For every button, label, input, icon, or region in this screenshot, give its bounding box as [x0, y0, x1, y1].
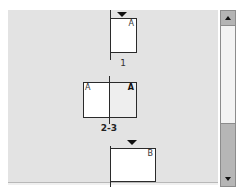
triangle-down-icon [117, 12, 127, 17]
panel-bottom-edge [8, 183, 218, 185]
page-1-thumbnail[interactable]: A [110, 18, 137, 53]
vertical-scrollbar[interactable] [220, 10, 236, 187]
spread-2-3-spine [109, 76, 110, 124]
page-b-thumbnail[interactable]: B [110, 148, 156, 182]
page-1-label[interactable]: 1 [108, 58, 138, 68]
page-3-master-letter: A [128, 84, 134, 92]
page-3-thumbnail[interactable]: A [110, 82, 137, 118]
spread-2-3-label[interactable]: 2-3 [94, 123, 124, 133]
page-b-master-letter: B [148, 150, 154, 158]
page-1-master-letter: A [129, 20, 134, 28]
page-2-thumbnail[interactable]: A [83, 82, 111, 118]
scroll-up-button[interactable] [221, 11, 235, 26]
triangle-down-icon [127, 140, 137, 145]
scroll-thumb[interactable] [221, 123, 235, 186]
arrow-up-icon [225, 16, 231, 20]
page-2-master-letter: A [85, 84, 90, 92]
arrow-down-icon[interactable] [225, 177, 231, 181]
